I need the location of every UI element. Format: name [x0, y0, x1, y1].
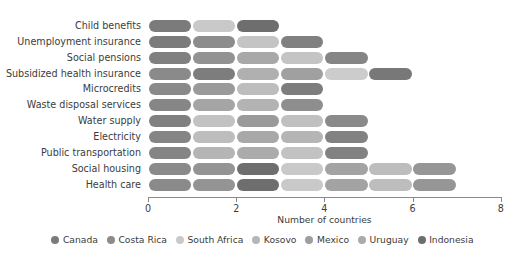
stacked-bar[interactable]	[148, 114, 369, 128]
legend-swatch-icon	[51, 236, 59, 244]
legend-label: Kosovo	[264, 234, 297, 245]
bar-segment[interactable]	[149, 115, 192, 127]
bar-segment[interactable]	[193, 68, 236, 80]
bar-segment[interactable]	[149, 179, 192, 191]
bar-segment[interactable]	[149, 99, 192, 111]
bar-segment[interactable]	[149, 147, 192, 159]
bar-segment[interactable]	[281, 131, 324, 143]
legend-item[interactable]: Kosovo	[252, 234, 296, 245]
chart-container: Child benefitsUnemployment insuranceSoci…	[0, 0, 525, 265]
bar-segment[interactable]	[237, 83, 280, 95]
stacked-bar[interactable]	[148, 162, 457, 176]
bar-row-label: Social pensions	[0, 51, 141, 65]
legend-swatch-icon	[176, 236, 184, 244]
bar-segment[interactable]	[237, 68, 280, 80]
bar-segment[interactable]	[369, 179, 412, 191]
bar-segment[interactable]	[325, 163, 368, 175]
stacked-bar[interactable]	[148, 178, 457, 192]
bar-segment[interactable]	[193, 131, 236, 143]
bar-segment[interactable]	[325, 115, 368, 127]
bar-segment[interactable]	[281, 115, 324, 127]
x-axis-tick-label: 8	[486, 203, 516, 214]
legend-item[interactable]: Costa Rica	[107, 234, 167, 245]
bar-row: Water supply	[0, 114, 525, 128]
legend-label: Costa Rica	[118, 234, 167, 245]
bar-row: Social pensions	[0, 51, 525, 65]
plot-area: Child benefitsUnemployment insuranceSoci…	[0, 0, 525, 265]
legend-swatch-icon	[418, 236, 426, 244]
legend-swatch-icon	[252, 236, 260, 244]
stacked-bar[interactable]	[148, 146, 369, 160]
stacked-bar[interactable]	[148, 35, 324, 49]
bar-segment[interactable]	[149, 83, 192, 95]
bar-segment[interactable]	[281, 52, 324, 64]
stacked-bar[interactable]	[148, 67, 413, 81]
legend-item[interactable]: Canada	[51, 234, 97, 245]
legend-label: Indonesia	[429, 234, 473, 245]
stacked-bar[interactable]	[148, 98, 324, 112]
bar-segment[interactable]	[281, 147, 324, 159]
legend-label: Uruguay	[370, 234, 409, 245]
legend-item[interactable]: South Africa	[176, 234, 243, 245]
bar-segment[interactable]	[325, 68, 368, 80]
bar-segment[interactable]	[149, 163, 192, 175]
bar-segment[interactable]	[325, 179, 368, 191]
legend-item[interactable]: Uruguay	[358, 234, 409, 245]
bar-row: Health care	[0, 178, 525, 192]
bar-segment[interactable]	[237, 179, 280, 191]
bar-segment[interactable]	[281, 99, 324, 111]
bar-segment[interactable]	[149, 36, 192, 48]
bar-segment[interactable]	[237, 163, 280, 175]
bar-segment[interactable]	[149, 20, 192, 32]
legend-label: Mexico	[317, 234, 349, 245]
bar-segment[interactable]	[193, 36, 236, 48]
stacked-bar[interactable]	[148, 51, 369, 65]
legend-item[interactable]: Indonesia	[418, 234, 474, 245]
bar-row: Microcredits	[0, 82, 525, 96]
bar-segment[interactable]	[325, 147, 368, 159]
bar-segment[interactable]	[237, 99, 280, 111]
legend-label: Canada	[63, 234, 98, 245]
bar-row-label: Public transportation	[0, 146, 141, 160]
bar-segment[interactable]	[281, 179, 324, 191]
bar-segment[interactable]	[193, 115, 236, 127]
legend-label: South Africa	[188, 234, 244, 245]
x-axis-tick	[236, 197, 237, 202]
stacked-bar[interactable]	[148, 82, 324, 96]
bar-segment[interactable]	[193, 99, 236, 111]
bar-segment[interactable]	[325, 52, 368, 64]
bar-segment[interactable]	[281, 163, 324, 175]
x-axis-tick	[501, 197, 502, 202]
stacked-bar[interactable]	[148, 130, 369, 144]
bar-segment[interactable]	[237, 131, 280, 143]
bar-segment[interactable]	[237, 115, 280, 127]
bar-segment[interactable]	[149, 52, 192, 64]
bar-segment[interactable]	[237, 147, 280, 159]
bar-segment[interactable]	[193, 179, 236, 191]
bar-segment[interactable]	[237, 52, 280, 64]
bar-segment[interactable]	[193, 52, 236, 64]
bar-segment[interactable]	[281, 68, 324, 80]
bar-segment[interactable]	[193, 163, 236, 175]
x-axis-tick-label: 6	[398, 203, 428, 214]
x-axis-tick-label: 4	[309, 203, 339, 214]
bar-row: Unemployment insurance	[0, 35, 525, 49]
stacked-bar[interactable]	[148, 19, 280, 33]
bar-segment[interactable]	[193, 20, 236, 32]
bar-segment[interactable]	[413, 179, 456, 191]
bar-segment[interactable]	[149, 131, 192, 143]
bar-segment[interactable]	[193, 83, 236, 95]
bar-segment[interactable]	[281, 83, 324, 95]
bar-segment[interactable]	[413, 163, 456, 175]
bar-segment[interactable]	[193, 147, 236, 159]
bar-row-label: Unemployment insurance	[0, 35, 141, 49]
bar-segment[interactable]	[325, 131, 368, 143]
bar-segment[interactable]	[237, 36, 280, 48]
legend-item[interactable]: Mexico	[305, 234, 349, 245]
bar-segment[interactable]	[149, 68, 192, 80]
bar-segment[interactable]	[237, 20, 280, 32]
bar-segment[interactable]	[281, 36, 324, 48]
bar-segment[interactable]	[369, 68, 412, 80]
bar-segment[interactable]	[369, 163, 412, 175]
bar-row: Public transportation	[0, 146, 525, 160]
